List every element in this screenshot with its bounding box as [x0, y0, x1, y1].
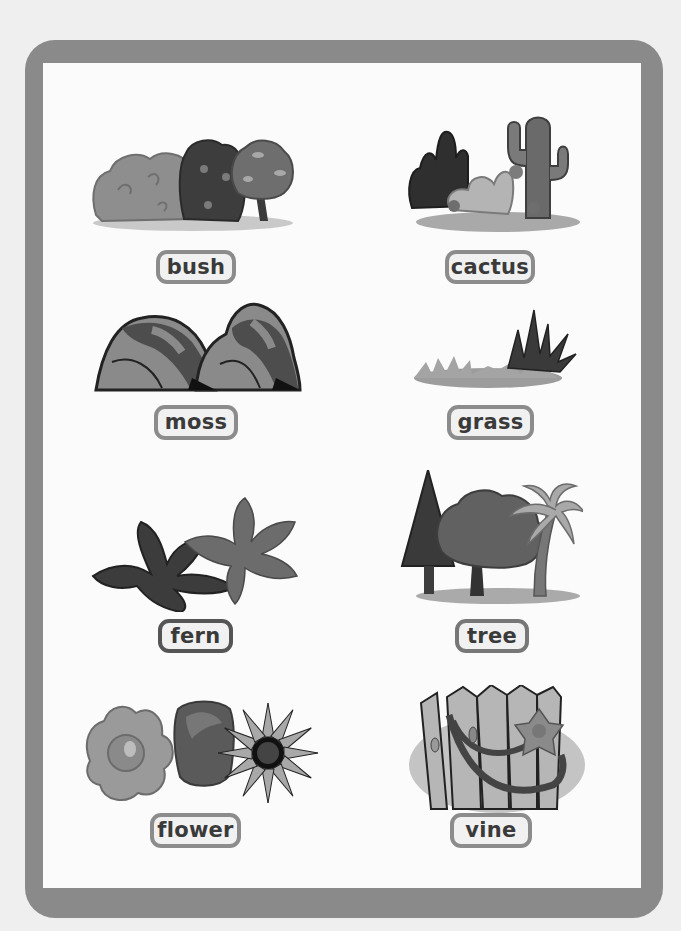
fern-icon — [85, 492, 300, 612]
vine-icon — [403, 685, 588, 815]
label-bush: bush — [156, 250, 236, 284]
label-moss: moss — [154, 405, 238, 440]
flower-icon — [80, 695, 320, 805]
grass-icon — [408, 300, 583, 395]
bush-icon — [88, 135, 298, 235]
label-flower: flower — [150, 813, 241, 848]
label-cactus: cactus — [445, 250, 535, 284]
cactus-icon — [402, 110, 582, 235]
label-fern: fern — [158, 619, 233, 653]
label-tree: tree — [455, 619, 529, 653]
label-grass: grass — [447, 405, 534, 440]
moss-icon — [92, 292, 312, 397]
label-vine: vine — [450, 813, 532, 848]
tree-icon — [398, 470, 583, 605]
